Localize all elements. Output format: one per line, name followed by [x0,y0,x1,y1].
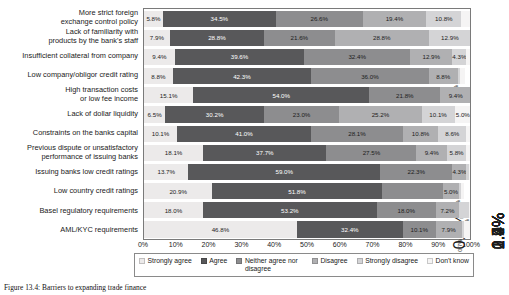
bar-segment[interactable]: 8.8% [144,68,173,84]
stacked-bar: 8.8%42.3%36.0%8.8%0.7% [144,68,471,84]
bar-segment[interactable]: 10.1% [144,126,177,142]
bar-segment[interactable]: 5.8% [447,145,466,161]
bar-segment[interactable]: 5.8% [144,11,163,27]
bar-segment[interactable]: 26.6% [276,11,363,27]
bar-segment[interactable]: 21.6% [264,30,335,46]
bar-segment[interactable]: 51.8% [212,183,381,199]
bar-segment[interactable]: 34.5% [163,11,276,27]
bar-segment[interactable]: 7.9% [144,30,170,46]
bar-segment[interactable] [464,221,471,237]
segment-value-label: 12.9% [422,53,440,60]
bar-segment[interactable]: 25.2% [339,106,421,122]
category-axis-labels: More strict foreignexchange control poli… [0,8,143,240]
stacked-bar: 5.8%34.5%26.6%19.4%10.8% [144,11,471,27]
category-label: More strict foreignexchange control poli… [0,8,143,27]
bar-segment[interactable]: 32.4% [297,221,403,237]
bar-segment[interactable]: 5.0% [455,106,471,122]
legend-item[interactable]: Neither agree nor disagree [236,257,303,273]
segment-value-label: 9.4% [152,53,166,60]
bar-segment[interactable]: 8.6% [438,126,466,142]
stacked-bar: 15.1%54.0%21.8%9.4% [144,87,471,103]
bar-segment[interactable] [466,145,471,161]
bar-segment[interactable]: 28.8% [335,30,429,46]
category-label-line: Lack of dollar liquidity [67,110,138,119]
bar-segment[interactable]: 36.0% [311,68,429,84]
table-row: 20.9%51.8%5.0%0.7%0.7% [144,182,471,201]
bar-segment[interactable]: 13.7% [144,164,188,180]
bar-segment[interactable]: 18.1% [144,145,203,161]
bar-segment[interactable]: 28.1% [311,126,403,142]
bar-segment[interactable]: 37.7% [203,145,326,161]
bar-segment[interactable]: 7.9% [436,221,462,237]
bar-segment[interactable]: 46.8% [144,221,297,237]
bar-segment[interactable]: 5.0% [443,183,459,199]
segment-value-label: 6.5% [148,111,162,118]
bar-segment[interactable]: 7.2% [436,202,460,218]
bar-segment[interactable] [382,183,443,199]
bar-segment[interactable]: 4.3% [452,49,466,65]
bar-segment[interactable]: 12.9% [429,30,471,46]
segment-value-label: 23.0% [293,111,311,118]
bar-segment[interactable]: 32.4% [304,49,410,65]
bar-segment[interactable]: 10.1% [422,106,455,122]
bar-segment[interactable] [460,68,465,84]
segment-value-label: 30.2% [206,111,224,118]
table-row: 18.0%53.2%18.0%7.2%0.7%2.9% [144,201,471,220]
segment-value-label: 34.5% [211,15,229,22]
bar-segment[interactable] [466,126,471,142]
bar-segment[interactable]: 23.0% [264,106,339,122]
x-axis-tick: 40% [267,241,281,248]
legend-item[interactable]: Agree [201,257,228,265]
bar-segment[interactable] [461,183,463,199]
bar-segment[interactable]: 12.9% [410,49,452,65]
bar-segment[interactable]: 41.0% [177,126,311,142]
bar-segment[interactable] [459,202,468,218]
stacked-bar: 7.9%28.8%21.6%28.8%12.9% [144,30,471,46]
bar-segment[interactable]: 4.3% [452,164,466,180]
bar-segment[interactable] [466,49,471,65]
bar-segment[interactable]: 21.8% [369,87,440,103]
legend-item[interactable]: Strongly disagree [357,257,418,265]
bar-segment[interactable]: 42.3% [173,68,311,84]
bar-segment[interactable]: 22.3% [380,164,452,180]
bar-segment[interactable]: 53.2% [203,202,377,218]
category-label-line: products by the bank's staff [48,37,138,46]
bar-segment[interactable]: 8.8% [429,68,458,84]
bar-segment[interactable]: 10.1% [403,221,436,237]
bar-segment[interactable]: 9.4% [416,145,447,161]
legend-item[interactable]: Disagree [312,257,348,265]
segment-value-label: 10.1% [410,226,428,233]
bar-segment[interactable]: 9.4% [440,87,471,103]
x-axis-tick: 100% [462,241,480,248]
legend-swatch [427,258,433,264]
category-label-line: AML/KYC requirements [60,226,138,235]
bar-segment[interactable]: 27.5% [326,145,416,161]
bar-segment[interactable]: 18.0% [377,202,436,218]
bar-segment[interactable]: 39.6% [175,49,304,65]
bar-segment[interactable]: 6.5% [144,106,165,122]
table-row: 13.7%59.0%22.3%4.3%0.7%0.7% [144,162,471,181]
bar-segment[interactable]: 54.0% [193,87,369,103]
bar-segment[interactable] [461,11,470,27]
legend-item[interactable]: Don't know [427,257,469,265]
bar-segment[interactable]: 59.0% [188,164,380,180]
bar-segment[interactable]: 18.0% [144,202,203,218]
legend-label: Strongly disagree [365,257,418,265]
bar-segment[interactable]: 0.7% [469,202,471,218]
bar-segment[interactable]: 10.8% [403,126,438,142]
bar-segment[interactable]: 28.8% [170,30,264,46]
segment-value-label: 21.8% [396,92,414,99]
category-label: AML/KYC requirements [0,221,143,240]
bar-segment[interactable]: 10.8% [426,11,461,27]
bar-segment[interactable] [469,164,471,180]
legend-item[interactable]: Strongly agree [139,257,192,265]
bar-segment[interactable]: 9.4% [144,49,175,65]
bar-segment[interactable]: 20.9% [144,183,212,199]
legend-label: Don't know [436,257,469,265]
bar-segment[interactable]: 30.2% [165,106,264,122]
segment-value-label: 5.0% [456,111,470,118]
bar-segment[interactable]: 15.1% [144,87,193,103]
x-axis-tick: 70% [366,241,380,248]
bar-segment[interactable]: 19.4% [363,11,426,27]
segment-value-label: 7.9% [150,34,164,41]
